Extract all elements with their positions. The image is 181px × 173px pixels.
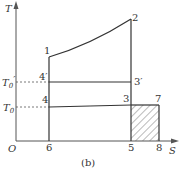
y-axis-arrow-icon bbox=[14, 1, 19, 9]
point-4-label: 4 bbox=[42, 94, 48, 105]
point-3-prime-label: 3′ bbox=[134, 76, 143, 87]
x-axis-label: S bbox=[169, 145, 176, 156]
hatched-area bbox=[131, 105, 159, 141]
t0-label: T0 bbox=[3, 102, 15, 115]
line-4-3 bbox=[49, 105, 131, 107]
x-tick-5: 5 bbox=[128, 142, 134, 153]
t0-prime-label: T0′ bbox=[2, 74, 16, 90]
x-axis-arrow-icon bbox=[171, 139, 179, 144]
point-7-label: 7 bbox=[155, 93, 161, 104]
curve-1-2 bbox=[49, 19, 131, 57]
figure-caption: (b) bbox=[81, 157, 95, 168]
point-2-label: 2 bbox=[132, 12, 138, 23]
x-tick-8: 8 bbox=[156, 142, 162, 153]
point-1-label: 1 bbox=[44, 45, 50, 56]
point-3-label: 3 bbox=[123, 93, 129, 104]
point-4-prime-label: 4′ bbox=[39, 71, 48, 82]
origin-label: O bbox=[8, 143, 16, 154]
x-tick-6: 6 bbox=[46, 142, 52, 153]
y-axis-label: T bbox=[5, 3, 13, 14]
ts-diagram: T S O T0′ T0 1 2 3′ 4′ 3 4 7 6 5 8 (b) bbox=[0, 0, 181, 173]
